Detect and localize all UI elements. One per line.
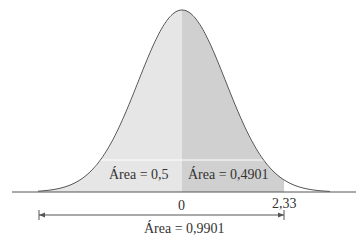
left-half-region xyxy=(38,10,182,192)
right-area-label: Área = 0,4901 xyxy=(188,168,269,182)
tick-zero-label: 0 xyxy=(178,199,185,213)
tick-z-label: 2,33 xyxy=(272,197,297,211)
arrow-left-head xyxy=(39,213,45,218)
arrow-right-head xyxy=(278,213,284,218)
total-area-label: Área = 0,9901 xyxy=(144,222,225,236)
left-area-label: Área = 0,5 xyxy=(109,168,169,182)
